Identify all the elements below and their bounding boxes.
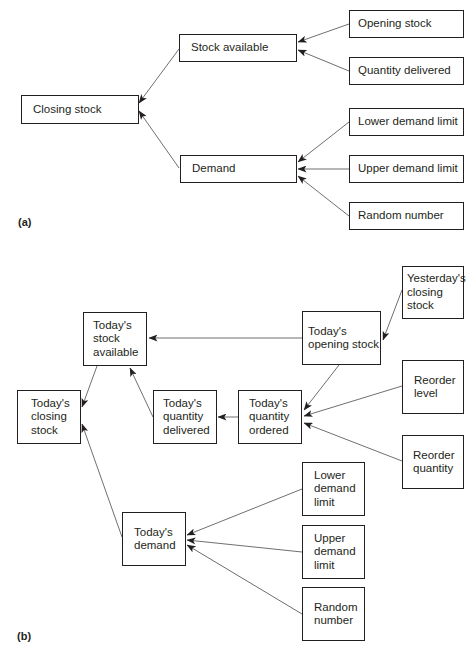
node-a-closing: Closing stock — [21, 95, 139, 124]
arrow-a-4 — [298, 122, 349, 162]
node-label: Upper demand limit — [314, 532, 356, 573]
node-label: Upper demand limit — [358, 162, 458, 176]
node-a-stock-avail: Stock available — [179, 34, 297, 62]
panel-label-b: (b) — [17, 630, 31, 642]
node-label: Opening stock — [358, 17, 432, 31]
node-label: Today's closing stock — [31, 397, 70, 438]
node-b-reorder-qty: Reorder quantity — [402, 435, 464, 489]
node-label: Lower demand limit — [314, 469, 356, 510]
node-label: Reorder level — [414, 374, 456, 401]
node-b-demand: Today's demand — [122, 512, 186, 566]
node-a-qty-deliv: Quantity delivered — [349, 57, 464, 85]
node-a-lower: Lower demand limit — [349, 108, 464, 136]
node-b-random: Random number — [302, 587, 365, 641]
node-a-random: Random number — [349, 202, 464, 230]
node-label: Quantity delivered — [358, 64, 451, 78]
node-a-opening: Opening stock — [349, 10, 464, 38]
node-b-qty-ordered: Today's quantity ordered — [238, 390, 302, 444]
node-b-closing: Today's closing stock — [17, 390, 81, 444]
node-label: Random number — [358, 209, 444, 223]
node-b-upper: Upper demand limit — [302, 525, 365, 579]
arrow-b-9 — [187, 489, 302, 535]
arrow-a-0 — [139, 49, 179, 103]
node-label: Today's stock available — [93, 319, 138, 360]
node-b-yest-closing: Yesterday's closing stock — [402, 266, 464, 319]
arrow-a-2 — [298, 24, 349, 42]
node-label: Reorder quantity — [413, 449, 455, 476]
node-label: Demand — [192, 162, 235, 176]
node-label: Random number — [314, 601, 357, 628]
node-label: Today's quantity delivered — [163, 397, 210, 438]
arrow-b-8 — [304, 423, 402, 461]
node-a-demand: Demand — [180, 155, 297, 183]
arrow-b-0 — [82, 366, 97, 407]
arrow-a-3 — [298, 50, 349, 71]
node-b-reorder-level: Reorder level — [402, 360, 464, 414]
arrow-b-5 — [383, 290, 402, 340]
arrow-b-10 — [187, 540, 302, 552]
arrow-b-2 — [130, 368, 153, 417]
node-b-lower: Lower demand limit — [302, 462, 365, 516]
node-label: Lower demand limit — [358, 115, 458, 129]
node-label: Stock available — [191, 41, 268, 55]
node-label: Today's demand — [134, 526, 176, 553]
arrow-b-11 — [187, 545, 302, 614]
arrow-b-1 — [82, 424, 122, 537]
arrow-a-1 — [139, 111, 179, 168]
arrow-a-6 — [298, 176, 349, 216]
node-b-stock-avail: Today's stock available — [83, 312, 147, 366]
arrow-b-6 — [304, 365, 339, 410]
influence-diagram-canvas: (a)Closing stockStock availableDemandOpe… — [0, 0, 476, 649]
node-label: Today's opening stock — [308, 325, 379, 352]
node-label: Today's quantity ordered — [249, 397, 289, 438]
node-b-qty-deliv: Today's quantity delivered — [153, 390, 217, 444]
node-label: Closing stock — [33, 103, 101, 117]
node-a-upper: Upper demand limit — [349, 155, 464, 183]
node-b-opening: Today's opening stock — [302, 311, 381, 365]
panel-label-a: (a) — [18, 216, 31, 228]
node-label: Yesterday's closing stock — [407, 272, 466, 313]
